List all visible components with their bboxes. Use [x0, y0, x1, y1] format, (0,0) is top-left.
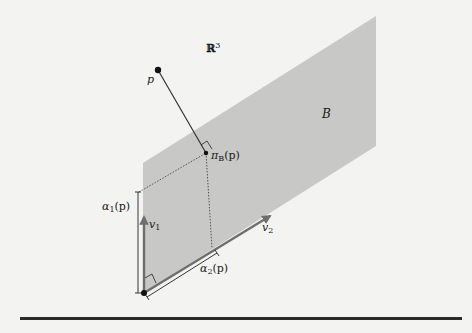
point-origin: [141, 290, 147, 296]
label-plane-b: B: [322, 108, 331, 120]
label-alpha2-arg: (p): [213, 262, 229, 275]
label-v1-sub: 1: [155, 223, 160, 232]
label-alpha2: α2(p): [200, 263, 228, 276]
alpha1-bracket: [135, 192, 141, 293]
label-v2: v2: [262, 222, 273, 235]
label-r3-base: ℝ: [206, 42, 215, 55]
label-r3: ℝ3: [206, 42, 220, 54]
label-projection-arg: (p): [224, 149, 240, 162]
label-p: p: [147, 74, 154, 85]
label-v2-sub: 2: [268, 226, 273, 235]
label-alpha1-arg: (p): [115, 200, 131, 213]
label-projection: πB(p): [211, 150, 240, 163]
diagram-graphics: [0, 0, 472, 333]
label-v1: v1: [149, 219, 160, 232]
horizontal-rule: [20, 317, 462, 320]
point-p: [155, 67, 161, 73]
label-p-text: p: [147, 73, 154, 86]
projection-diagram: ℝ3 B p πB(p) v1 v2 α1(p) α2(p): [0, 0, 472, 333]
label-alpha1: α1(p): [102, 201, 130, 214]
label-r3-exponent: 3: [215, 41, 220, 50]
label-plane-b-text: B: [322, 107, 331, 121]
plane-b: [143, 16, 376, 293]
point-projection: [204, 151, 208, 155]
